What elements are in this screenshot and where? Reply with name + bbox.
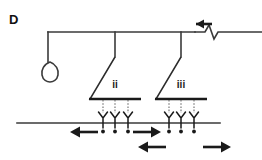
top-fiber-group [42,20,262,83]
arrow-bottom-left-2 [138,142,166,153]
neuron-iii-group: iii [155,32,207,113]
arrow-bottom-right-2 [203,142,231,153]
bouton-dot-2 [113,130,117,134]
figure-panel-d: D ii [0,0,262,160]
bouton-dot-3 [126,130,130,134]
cell-body-oval-icon [42,62,58,82]
neuron-iii-label: iii [177,79,186,90]
neuron-iii-triangle [156,57,206,99]
bouton-dot-1 [101,130,105,134]
arrow-bottom-right-1 [133,127,161,138]
terminal-group-iii [165,112,199,133]
neuron-ii-triangle [90,57,140,99]
panel-label: D [9,12,18,27]
neuron-ii-label: ii [112,79,118,90]
neuron-ii-group: ii [89,32,141,113]
bouton-dot-6 [192,130,196,134]
bouton-dot-4 [167,130,171,134]
arrow-bottom-left-1 [70,127,98,138]
terminal-group-ii [99,112,133,133]
fiber-break-zigzag-icon [195,25,262,39]
bouton-dot-5 [179,130,183,134]
diagram-canvas: D ii [0,0,262,160]
